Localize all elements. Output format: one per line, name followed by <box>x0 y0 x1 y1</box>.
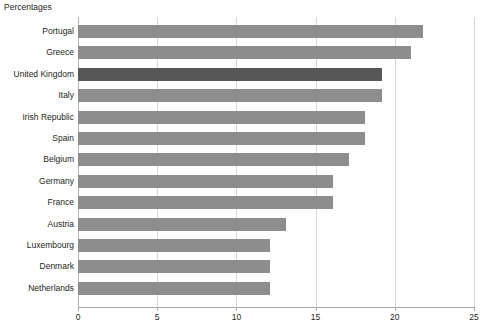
bar-row <box>78 239 474 252</box>
x-tick-label-20: 20 <box>390 312 399 323</box>
bar-row <box>78 89 474 102</box>
category-label: Irish Republic <box>2 111 74 124</box>
category-label: Greece <box>2 46 74 59</box>
category-label: Italy <box>2 89 74 102</box>
bar <box>78 153 349 166</box>
category-label: Luxembourg <box>2 239 74 252</box>
category-label: Belgium <box>2 153 74 166</box>
bar <box>78 111 365 124</box>
x-axis-line <box>78 307 475 308</box>
x-tick-mark-20 <box>395 308 396 311</box>
x-tick-label-15: 15 <box>311 312 320 323</box>
x-tick-mark-10 <box>236 308 237 311</box>
category-label: Netherlands <box>2 282 74 295</box>
bar-chart: Percentages PortugalGreeceUnited Kingdom… <box>0 0 480 332</box>
x-tick-mark-5 <box>157 308 158 311</box>
category-label: Denmark <box>2 260 74 273</box>
bar <box>78 89 382 102</box>
bar-row <box>78 153 474 166</box>
category-label: Germany <box>2 175 74 188</box>
category-label: France <box>2 196 74 209</box>
bar <box>78 25 423 38</box>
x-tick-mark-15 <box>316 308 317 311</box>
chart-title: Percentages <box>4 2 52 13</box>
bar-row <box>78 218 474 231</box>
bar-row <box>78 175 474 188</box>
x-tick-label-0: 0 <box>76 312 81 323</box>
bar-row <box>78 46 474 59</box>
bar-row <box>78 282 474 295</box>
x-tick-label-10: 10 <box>232 312 241 323</box>
bar-row <box>78 68 474 81</box>
gridline-25 <box>474 17 475 307</box>
bar <box>78 68 382 81</box>
x-tick-label-25: 25 <box>469 312 478 323</box>
x-tick-mark-25 <box>474 308 475 311</box>
x-tick-label-5: 5 <box>155 312 160 323</box>
plot-area <box>78 17 474 307</box>
bar <box>78 132 365 145</box>
category-label: United Kingdom <box>2 68 74 81</box>
bar <box>78 239 270 252</box>
x-tick-mark-0 <box>78 308 79 311</box>
category-axis-labels: PortugalGreeceUnited KingdomItalyIrish R… <box>0 17 74 307</box>
bar <box>78 196 333 209</box>
bar <box>78 175 333 188</box>
category-label: Spain <box>2 132 74 145</box>
bar-row <box>78 25 474 38</box>
bar-row <box>78 111 474 124</box>
bar <box>78 260 270 273</box>
bar <box>78 46 411 59</box>
category-label: Portugal <box>2 25 74 38</box>
bar-row <box>78 196 474 209</box>
bar <box>78 282 270 295</box>
bar <box>78 218 286 231</box>
bar-row <box>78 260 474 273</box>
bar-row <box>78 132 474 145</box>
category-label: Austria <box>2 218 74 231</box>
